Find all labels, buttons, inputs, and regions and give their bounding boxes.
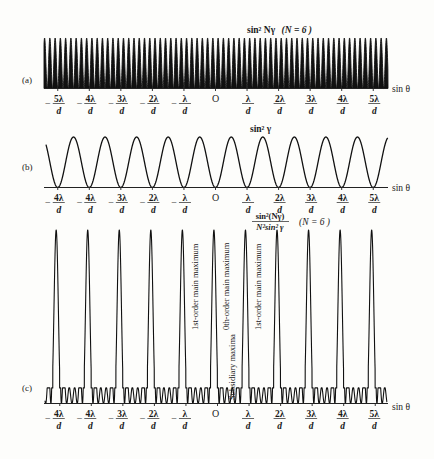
tick-label: 3λd−	[108, 89, 128, 116]
tick-numerator: λ	[183, 193, 188, 203]
tick-denominator: d	[56, 106, 61, 116]
tick-label: 2λd−	[140, 188, 160, 215]
tick-denominator: d	[119, 106, 124, 116]
tick-minus-sign: −	[77, 197, 83, 208]
tick-label: 3λd−	[108, 404, 128, 431]
tick-denominator: d	[340, 205, 345, 215]
tick-label: 3λd	[305, 404, 317, 431]
tick-numerator: 2λ	[275, 94, 285, 104]
tick-label: 3λd	[305, 188, 317, 215]
tick-numerator: λ	[246, 409, 251, 419]
panel-b-tick-labels: 4λd−4λd−3λd−2λd−λd−Oλd2λd3λd4λd5λd	[45, 188, 380, 215]
tick-numerator: 2λ	[149, 409, 159, 419]
tick-label: 4λd	[337, 89, 349, 116]
panel-b-axis-label: sin θ	[392, 183, 410, 193]
tick-label: λd−	[171, 404, 191, 431]
tick-label: 2λd	[274, 89, 286, 116]
tick-denominator: d	[88, 106, 93, 116]
tick-numerator: 5λ	[54, 94, 64, 104]
tick-numerator: 3λ	[306, 409, 316, 419]
tick-denominator: d	[309, 205, 314, 215]
tick-denominator: d	[183, 106, 188, 116]
tick-denominator: d	[56, 205, 61, 215]
tick-minus-sign: −	[171, 98, 177, 109]
tick-label: 4λd−	[77, 89, 97, 116]
tick-denominator: d	[277, 106, 282, 116]
panel-a-title: sin² Nγ (N = 6 )	[247, 25, 312, 36]
tick-numerator: λ	[183, 409, 188, 419]
panel-c-tick-labels: 4λd−4λd−3λd−2λd−λd−Oλd2λd3λd4λd5λd	[45, 404, 380, 431]
tick-numerator: 2λ	[149, 94, 159, 104]
panel-a-tick-labels: 5λd−4λd−3λd−2λd−λd−Oλd2λd3λd4λd5λd	[45, 89, 380, 116]
panel-c-formula-numerator: sin²(Nγ)	[256, 211, 285, 221]
tick-label: 4λd	[337, 188, 349, 215]
tick-numerator: λ	[246, 94, 251, 104]
panel-a: (a) sin² Nγ (N = 6 ) sin θ 5λd−4λd−3λd−2…	[22, 25, 410, 116]
tick-denominator: d	[151, 106, 156, 116]
panel-b-curve	[46, 137, 388, 188]
panel-c-title-param: (N = 6 )	[299, 217, 330, 228]
tick-denominator: d	[151, 421, 156, 431]
tick-numerator: 2λ	[275, 193, 285, 203]
tick-numerator: 3λ	[117, 193, 127, 203]
tick-denominator: d	[372, 205, 377, 215]
tick-minus-sign: −	[108, 197, 114, 208]
tick-denominator: d	[372, 106, 377, 116]
tick-minus-sign: −	[108, 98, 114, 109]
tick-minus-sign: −	[140, 197, 146, 208]
tick-label: O	[212, 188, 219, 203]
panel-a-title-formula: sin² Nγ	[247, 25, 276, 35]
panel-c-formula-denominator: N²sin² γ	[255, 222, 284, 232]
tick-numerator: 4λ	[338, 94, 348, 104]
tick-label: λd	[242, 89, 254, 116]
tick-denominator: d	[88, 421, 93, 431]
tick-denominator: d	[309, 421, 314, 431]
tick-denominator: d	[277, 421, 282, 431]
tick-numerator: 5λ	[370, 193, 380, 203]
tick-label: 5λd−	[45, 89, 65, 116]
tick-label: λd−	[171, 188, 191, 215]
tick-label: 5λd	[368, 188, 380, 215]
tick-numerator: 2λ	[275, 409, 285, 419]
tick-label: λd	[242, 188, 254, 215]
tick-numerator: 4λ	[86, 409, 96, 419]
annotation-zeroth-order: 0th-order main maximum	[221, 242, 231, 330]
panel-b-title: sin² γ	[250, 124, 272, 134]
panel-c: (c) sin²(Nγ) N²sin² γ (N = 6 ) sin θ 4λd…	[22, 211, 410, 431]
tick-numerator: 4λ	[54, 409, 64, 419]
panel-a-title-param: (N = 6 )	[282, 25, 312, 36]
tick-minus-sign: −	[171, 413, 177, 424]
tick-denominator: d	[372, 421, 377, 431]
tick-numerator: 4λ	[86, 193, 96, 203]
tick-denominator: d	[309, 106, 314, 116]
tick-label: 4λd−	[45, 188, 65, 215]
tick-label: 2λd	[274, 404, 286, 431]
tick-minus-sign: −	[45, 197, 51, 208]
tick-numerator: 4λ	[338, 409, 348, 419]
tick-numerator: 2λ	[149, 193, 159, 203]
tick-label: 4λd−	[45, 404, 65, 431]
tick-denominator: d	[151, 205, 156, 215]
tick-label: 2λd−	[140, 89, 160, 116]
tick-label: O	[212, 89, 219, 104]
tick-denominator: d	[183, 205, 188, 215]
tick-label: 4λd	[337, 404, 349, 431]
tick-numerator: λ	[246, 193, 251, 203]
tick-numerator: 4λ	[338, 193, 348, 203]
tick-numerator: 4λ	[86, 94, 96, 104]
panel-c-axis-label: sin θ	[392, 402, 410, 412]
panel-c-title: sin²(Nγ) N²sin² γ (N = 6 )	[252, 211, 330, 232]
origin-label: O	[212, 408, 219, 419]
tick-minus-sign: −	[45, 98, 51, 109]
tick-denominator: d	[340, 106, 345, 116]
tick-minus-sign: −	[108, 413, 114, 424]
tick-label: 3λd	[305, 89, 317, 116]
tick-denominator: d	[246, 106, 251, 116]
tick-label: 4λd−	[77, 404, 97, 431]
tick-denominator: d	[119, 421, 124, 431]
tick-numerator: 5λ	[370, 94, 380, 104]
tick-label: 4λd−	[77, 188, 97, 215]
origin-label: O	[212, 192, 219, 203]
tick-label: 3λd−	[108, 188, 128, 215]
tick-denominator: d	[246, 421, 251, 431]
